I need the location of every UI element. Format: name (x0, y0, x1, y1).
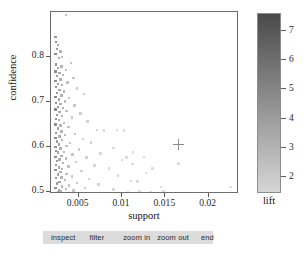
scatter-point[interactable] (59, 103, 61, 105)
scatter-point[interactable] (55, 177, 57, 179)
scatter-point[interactable] (58, 89, 60, 91)
scatter-point[interactable] (54, 53, 56, 55)
scatter-point[interactable] (97, 183, 99, 185)
scatter-point[interactable] (64, 134, 66, 136)
scatter-point[interactable] (149, 191, 151, 193)
scatter-point[interactable] (54, 96, 56, 98)
interaction-button-bar[interactable]: inspect filter zoom in zoom out end (43, 231, 213, 244)
scatter-point[interactable] (58, 166, 60, 168)
scatter-point[interactable] (64, 100, 66, 102)
scatter-point[interactable] (55, 86, 57, 88)
scatter-point[interactable] (58, 72, 60, 74)
scatter-point[interactable] (62, 107, 64, 109)
scatter-point[interactable] (71, 116, 73, 118)
scatter-point[interactable] (71, 153, 73, 155)
scatter-point[interactable] (54, 70, 56, 72)
scatter-point[interactable] (75, 161, 77, 163)
scatter-point[interactable] (177, 162, 179, 164)
scatter-point[interactable] (57, 67, 59, 69)
scatter-point[interactable] (65, 173, 67, 175)
scatter-point[interactable] (57, 106, 59, 108)
scatter-point[interactable] (138, 190, 140, 192)
scatter-point[interactable] (57, 173, 59, 175)
scatter-point[interactable] (54, 156, 56, 158)
scatter-point[interactable] (55, 41, 57, 43)
scatter-point[interactable] (54, 123, 56, 125)
scatter-point[interactable] (103, 129, 105, 131)
scatter-point[interactable] (56, 160, 58, 162)
scatter-point[interactable] (59, 147, 61, 149)
scatter-point[interactable] (60, 94, 62, 96)
scatter-point[interactable] (70, 62, 72, 64)
scatter-point[interactable] (123, 129, 125, 131)
scatter-point[interactable] (65, 110, 67, 112)
scatter-point[interactable] (54, 187, 56, 189)
scatter-point[interactable] (108, 167, 110, 169)
scatter-point[interactable] (66, 81, 68, 83)
scatter-point[interactable] (130, 180, 132, 182)
scatter-point[interactable] (67, 165, 69, 167)
scatter-point[interactable] (60, 155, 62, 157)
scatter-point[interactable] (58, 57, 60, 59)
scatter-point[interactable] (54, 108, 56, 110)
filter-button[interactable]: filter (86, 231, 107, 244)
scatter-point[interactable] (90, 141, 92, 143)
scatter-point[interactable] (57, 127, 59, 129)
scatter-point[interactable] (59, 190, 61, 192)
scatter-point[interactable] (143, 156, 145, 158)
scatter-point[interactable] (67, 126, 69, 128)
scatter-point[interactable] (60, 65, 62, 67)
scatter-point[interactable] (55, 63, 57, 65)
scatter-point[interactable] (61, 115, 63, 117)
scatter-point[interactable] (72, 77, 74, 79)
scatter-point[interactable] (116, 129, 118, 131)
scatter-point[interactable] (151, 167, 153, 169)
scatter-point[interactable] (82, 138, 84, 140)
scatter-point[interactable] (65, 145, 67, 147)
scatter-point[interactable] (62, 162, 64, 164)
inspect-button[interactable]: inspect (48, 231, 78, 244)
scatter-point[interactable] (55, 132, 57, 134)
scatter-point[interactable] (56, 114, 58, 116)
scatter-point[interactable] (160, 186, 162, 188)
scatter-point[interactable] (73, 104, 75, 106)
scatter-point[interactable] (54, 80, 56, 82)
scatter-point[interactable] (63, 122, 65, 124)
scatter-point[interactable] (61, 84, 63, 86)
scatter-point[interactable] (93, 164, 95, 166)
scatter-point[interactable] (62, 74, 64, 76)
scatter-point[interactable] (112, 147, 114, 149)
scatter-point[interactable] (64, 179, 66, 181)
scatter-point[interactable] (132, 151, 134, 153)
scatter-point[interactable] (58, 181, 60, 183)
scatter-point[interactable] (58, 135, 60, 137)
scatter-point[interactable] (125, 156, 127, 158)
scatter-point[interactable] (136, 180, 138, 182)
scatter-point[interactable] (63, 151, 65, 153)
scatter-point[interactable] (55, 102, 57, 104)
scatter-point[interactable] (84, 187, 86, 189)
scatter-point[interactable] (54, 146, 56, 148)
scatter-point[interactable] (58, 158, 60, 160)
scatter-point[interactable] (56, 140, 58, 142)
scatter-point[interactable] (60, 130, 62, 132)
scatter-point[interactable] (56, 92, 58, 94)
scatter-point[interactable] (99, 152, 101, 154)
scatter-point[interactable] (54, 137, 56, 139)
zoom-in-button[interactable]: zoom in (120, 231, 153, 244)
scatter-point[interactable] (56, 75, 58, 77)
scatter-point[interactable] (65, 188, 67, 190)
scatter-point[interactable] (127, 191, 129, 193)
scatter-point[interactable] (79, 112, 81, 114)
scatter-point[interactable] (68, 184, 70, 186)
scatter-point[interactable] (76, 87, 78, 89)
scatter-point[interactable] (54, 169, 56, 171)
scatter-point[interactable] (83, 93, 85, 95)
zoom-out-button[interactable]: zoom out (154, 231, 192, 244)
scatter-point[interactable] (69, 142, 71, 144)
scatter-point[interactable] (57, 191, 59, 193)
scatter-point[interactable] (57, 83, 59, 85)
scatter-point[interactable] (58, 119, 60, 121)
scatter-point[interactable] (60, 176, 62, 178)
scatter-point[interactable] (78, 148, 80, 150)
